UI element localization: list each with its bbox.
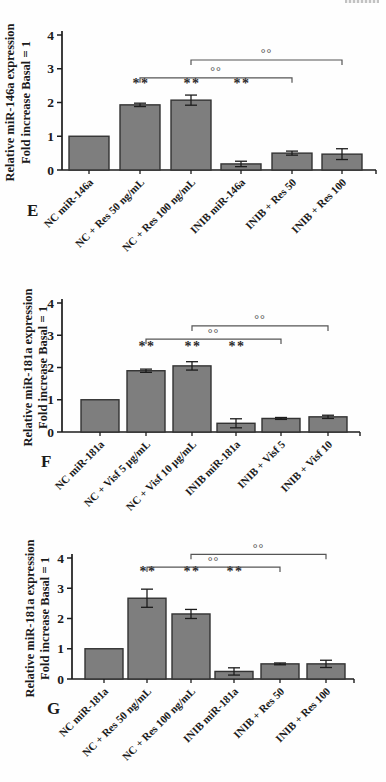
bar-chart-E: 01234NC miR-146aNC + Res 50 ng/mLNC + Re… xyxy=(0,20,386,270)
y-tick-label: 3 xyxy=(47,61,54,76)
x-tick-label: NC miR-146a xyxy=(41,176,95,230)
bracket-significance-label: °° xyxy=(253,541,265,555)
y-tick-label: 0 xyxy=(47,163,54,178)
panel-letter: G xyxy=(47,699,60,718)
y-axis-title-line1: Relative miR-181a expression xyxy=(21,288,35,446)
comparison-bracket xyxy=(140,78,292,83)
y-tick-label: 1 xyxy=(47,129,54,144)
significance-stars: ** xyxy=(227,564,244,579)
bracket-significance-label: °° xyxy=(210,64,222,78)
y-axis-title-line1: Relative miR-181a expression xyxy=(23,539,37,697)
bar xyxy=(127,371,165,432)
significance-stars: ** xyxy=(184,564,201,579)
significance-stars: ** xyxy=(139,339,156,354)
bar xyxy=(309,417,347,432)
y-tick-label: 2 xyxy=(57,611,64,626)
bar xyxy=(171,100,211,170)
y-axis-title-line2: Fold increase Basal = 1 xyxy=(38,557,52,680)
figure-page: 01234NC miR-146aNC + Res 50 ng/mLNC + Re… xyxy=(0,0,386,782)
bracket-significance-label: °° xyxy=(208,326,220,340)
bar xyxy=(85,649,123,679)
y-tick-label: 4 xyxy=(47,28,54,43)
y-tick-label: 4 xyxy=(57,551,64,566)
significance-stars: ** xyxy=(140,564,157,579)
bracket-significance-label: °° xyxy=(208,554,220,568)
cropped-text-fragment xyxy=(345,0,379,3)
bar xyxy=(120,105,160,170)
bracket-significance-label: °° xyxy=(254,312,266,326)
panel-F: 01234NC miR-181aNC + Visf 5 µg/mLNC + Vi… xyxy=(0,283,386,530)
y-axis-title-line2: Fold increase Basal = 1 xyxy=(19,41,33,164)
significance-stars: ** xyxy=(185,339,202,354)
bar-chart-F: 01234NC miR-181aNC + Visf 5 µg/mLNC + Vi… xyxy=(0,283,386,530)
significance-stars: ** xyxy=(229,339,246,354)
x-tick-label: INIB + Res 50 xyxy=(243,176,299,232)
bracket-significance-label: °° xyxy=(261,46,273,60)
bar xyxy=(69,136,109,170)
panel-letter: E xyxy=(27,201,38,220)
x-tick-label: INIB + Visf 5 xyxy=(235,438,288,491)
panel-G: 01234NC miR-181aNC + Res 50 ng/mLNC + Re… xyxy=(0,533,386,782)
bar xyxy=(262,418,300,432)
y-tick-label: 3 xyxy=(57,581,64,596)
bar xyxy=(81,400,119,432)
x-tick-label: NC + Res 100 ng/mL xyxy=(120,685,198,763)
panel-E: 01234NC miR-146aNC + Res 50 ng/mLNC + Re… xyxy=(0,20,386,270)
comparison-bracket xyxy=(147,567,280,572)
y-axis-title-line2: Fold increase Basal = 1 xyxy=(36,306,50,429)
y-tick-label: 0 xyxy=(57,672,64,687)
y-axis-title-line1: Relative miR-146a expression xyxy=(3,23,17,181)
panel-letter: F xyxy=(41,452,51,471)
bar xyxy=(172,614,210,679)
bar xyxy=(128,598,166,679)
comparison-bracket xyxy=(146,339,281,344)
bar xyxy=(173,366,211,432)
y-tick-label: 1 xyxy=(57,641,64,656)
y-tick-label: 2 xyxy=(47,95,54,110)
bar xyxy=(261,664,299,679)
bar-chart-G: 01234NC miR-181aNC + Res 50 ng/mLNC + Re… xyxy=(0,533,386,782)
